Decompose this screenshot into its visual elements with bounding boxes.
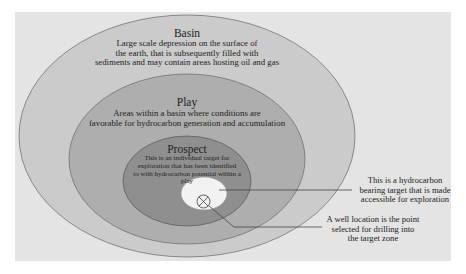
well-callout-line: the target zone <box>318 234 428 244</box>
basin-description: Large scale depression on the surface of… <box>62 39 312 68</box>
play-desc-line: favorable for hydrocarbon generation and… <box>67 119 307 129</box>
play-description: Areas within a basin where conditions ar… <box>67 109 307 128</box>
prospect-desc-line: to with hydrocarbon potential within a p… <box>127 171 247 187</box>
target-callout-line: accessible for exploration <box>350 195 460 205</box>
well-callout: A well location is the point selected fo… <box>318 215 428 244</box>
target-callout: This is a hydrocarbon bearing target tha… <box>350 176 460 205</box>
basin-desc-line: sediments and may contain areas hosting … <box>62 58 312 68</box>
play-title: Play <box>87 96 287 108</box>
play-label: Play <box>87 96 287 108</box>
prospect-description: This is an individual target for explora… <box>127 155 247 186</box>
